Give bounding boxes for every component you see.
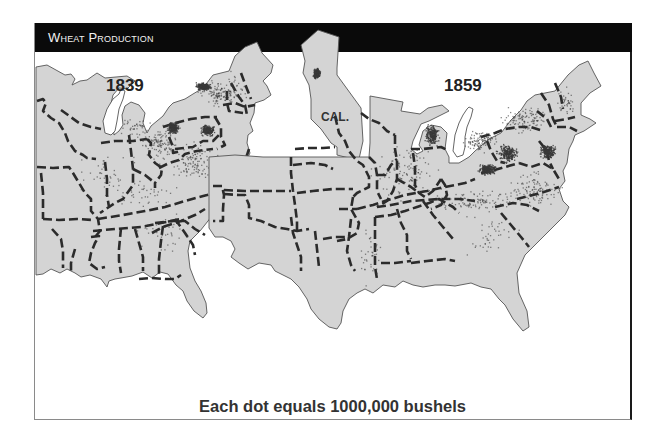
wheat-dot (423, 157, 424, 158)
wheat-dot (430, 202, 431, 203)
wheat-dot (317, 69, 318, 70)
wheat-dot (133, 194, 134, 195)
wheat-dot (136, 134, 137, 135)
wheat-dot (198, 151, 199, 152)
wheat-dot (481, 204, 482, 205)
wheat-dot (430, 136, 431, 137)
wheat-dot (394, 168, 395, 169)
wheat-dot (426, 127, 427, 128)
wheat-dot (221, 93, 222, 94)
wheat-dot (137, 230, 138, 231)
wheat-dot (534, 180, 535, 181)
wheat-dot (182, 158, 183, 159)
wheat-dot (178, 154, 179, 155)
wheat-dot (121, 133, 122, 134)
wheat-dot (235, 94, 236, 95)
wheat-dot (514, 157, 515, 158)
wheat-dot (179, 238, 180, 239)
wheat-dot (567, 113, 568, 114)
wheat-dot (234, 80, 235, 81)
wheat-dot (477, 138, 478, 139)
wheat-dot (165, 234, 166, 235)
wheat-dot (519, 115, 520, 116)
wheat-dot (466, 205, 467, 206)
wheat-dot (506, 202, 507, 203)
wheat-dot (412, 168, 413, 169)
wheat-dot (566, 111, 567, 112)
wheat-dot (215, 103, 216, 104)
wheat-dot (169, 133, 170, 134)
wheat-dot (539, 191, 540, 192)
wheat-dot (481, 168, 482, 169)
wheat-dot (133, 197, 134, 198)
wheat-dot (488, 169, 489, 170)
wheat-dot (171, 235, 172, 236)
wheat-dot (105, 182, 106, 183)
wheat-dot (417, 150, 418, 151)
wheat-dot (181, 172, 182, 173)
wheat-dot (193, 161, 194, 162)
wheat-dot (386, 189, 387, 190)
wheat-dot (365, 233, 366, 234)
wheat-dot (196, 171, 197, 172)
wheat-dot (414, 187, 415, 188)
wheat-dot (501, 146, 502, 147)
wheat-dot (474, 144, 475, 145)
wheat-dot (506, 163, 507, 164)
wheat-dot (421, 171, 422, 172)
wheat-dot (491, 170, 492, 171)
wheat-dot (230, 85, 231, 86)
wheat-dot (537, 191, 538, 192)
wheat-dot (503, 145, 504, 146)
wheat-dot (529, 195, 530, 196)
wheat-dot (542, 195, 543, 196)
wheat-dot (163, 125, 164, 126)
wheat-dot (374, 251, 375, 252)
wheat-dot (149, 151, 150, 152)
wheat-dot (214, 88, 215, 89)
wheat-dot (501, 117, 502, 118)
wheat-dot (398, 183, 399, 184)
wheat-dot (313, 75, 314, 76)
wheat-dot (445, 205, 446, 206)
wheat-dot (558, 192, 559, 193)
wheat-dot (471, 207, 472, 208)
wheat-dot (524, 125, 525, 126)
wheat-dot (139, 202, 140, 203)
wheat-dot (161, 147, 162, 148)
wheat-dot (156, 232, 157, 233)
wheat-dot (229, 91, 230, 92)
wheat-dot (526, 182, 527, 183)
wheat-dot (431, 125, 432, 126)
wheat-dot (134, 125, 135, 126)
wheat-dot (452, 203, 453, 204)
wheat-dot (217, 89, 218, 90)
wheat-dot (496, 141, 497, 142)
wheat-dot (552, 147, 553, 148)
wheat-dot (548, 149, 549, 150)
wheat-dot (138, 185, 139, 186)
wheat-dot (495, 136, 496, 137)
wheat-dot (531, 115, 532, 116)
wheat-dot (561, 101, 562, 102)
wheat-dot (226, 95, 227, 96)
wheat-dot (563, 107, 564, 108)
wheat-dot (204, 126, 205, 127)
wheat-dot (399, 193, 400, 194)
wheat-dot (364, 259, 365, 260)
wheat-dot (133, 129, 134, 130)
wheat-dot (482, 165, 483, 166)
wheat-dot (484, 202, 485, 203)
wheat-dot (547, 198, 548, 199)
wheat-dot (525, 117, 526, 118)
wheat-dot (206, 166, 207, 167)
wheat-dot (433, 140, 434, 141)
wheat-dot (487, 239, 488, 240)
wheat-dot (200, 93, 201, 94)
wheat-dot (183, 171, 184, 172)
wheat-dot (522, 119, 523, 120)
wheat-dot (214, 98, 215, 99)
wheat-dot (378, 260, 379, 261)
wheat-dot (386, 173, 387, 174)
wheat-dot (490, 173, 491, 174)
